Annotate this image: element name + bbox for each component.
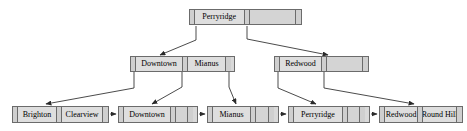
pointer-cell[interactable] [360,107,365,122]
node-leaf-mianus[interactable]: Mianus [207,106,279,123]
key-cell: Clearview [62,107,103,122]
root-to-internal-left [160,26,196,55]
root-to-internal-right [247,26,328,55]
key-cell: Redwood [385,107,418,122]
node-leaf-downtown[interactable]: Downtown [118,106,198,123]
pointer-cell[interactable] [188,107,193,122]
node-internal-left[interactable]: DowntownMianus [130,56,235,72]
empty-cell [250,10,297,24]
empty-cell [327,57,363,71]
pointer-cell[interactable] [457,107,462,122]
key-cell: Mianus [188,57,226,71]
pointer-cell[interactable] [226,57,231,71]
pointer-cell[interactable] [269,107,274,122]
internal-left-to-leaf1 [46,72,134,104]
empty-cell [256,107,269,122]
internal-left-to-leaf2 [152,72,182,104]
key-cell: Perryridge [195,10,245,24]
internal-right-to-leaf4 [278,72,316,104]
node-leaf-brighton-clearview[interactable]: BrightonClearview [12,106,109,123]
empty-cell [176,107,188,122]
pointer-cell[interactable] [363,57,368,71]
empty-cell [348,107,360,122]
key-cell: Round Hill [423,107,457,122]
key-cell: Redwood [280,57,322,71]
key-cell: Perryridge [294,107,343,122]
internal-left-to-leaf3 [229,72,236,104]
node-leaf-perryridge[interactable]: Perryridge [288,106,370,123]
internal-right-to-leaf5 [324,72,414,104]
pointer-cell[interactable] [296,10,301,24]
node-internal-right[interactable]: Redwood [274,56,369,72]
b-plus-tree-diagram: Perryridge DowntownMianus Redwood Bright… [0,0,467,131]
key-cell: Mianus [213,107,251,122]
key-cell: Brighton [18,107,57,122]
node-root[interactable]: Perryridge [189,9,302,25]
key-cell: Downtown [136,57,183,71]
node-leaf-redwood-roundhill[interactable]: RedwoodRound Hill [379,106,463,123]
pointer-cell[interactable] [103,107,108,122]
key-cell: Downtown [124,107,171,122]
